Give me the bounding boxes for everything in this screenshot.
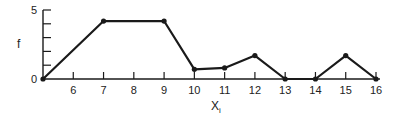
data-point [192, 67, 197, 72]
x-tick-label: 9 [161, 84, 167, 96]
x-tick-label: 11 [219, 84, 230, 96]
x-tick-label: 16 [370, 84, 382, 96]
y-axis-title: f [17, 37, 21, 51]
x-tick-label: 7 [100, 84, 106, 96]
x-tick-label: 8 [131, 84, 137, 96]
data-point [161, 18, 166, 23]
x-tick-label: 12 [249, 84, 261, 96]
x-tick-label: 14 [309, 84, 321, 96]
x-tick-label: 15 [340, 84, 352, 96]
data-markers [40, 18, 378, 81]
data-point [373, 76, 378, 81]
y-tick-label: 0 [31, 73, 37, 85]
x-tick-label: 13 [279, 84, 291, 96]
tick-labels: 05678910111213141516 [31, 4, 382, 96]
data-point [40, 76, 45, 81]
x-axis-title: Xi [211, 99, 221, 115]
x-tick-label: 10 [188, 84, 200, 96]
data-point [343, 53, 348, 58]
data-point [252, 53, 257, 58]
data-point [222, 65, 227, 70]
frequency-polygon-chart: 05678910111213141516 f Xi [0, 0, 399, 122]
data-point [283, 76, 288, 81]
data-point [313, 76, 318, 81]
data-point [101, 18, 106, 23]
x-tick-label: 6 [70, 84, 76, 96]
y-tick-label: 5 [31, 4, 37, 16]
data-line [43, 21, 376, 79]
